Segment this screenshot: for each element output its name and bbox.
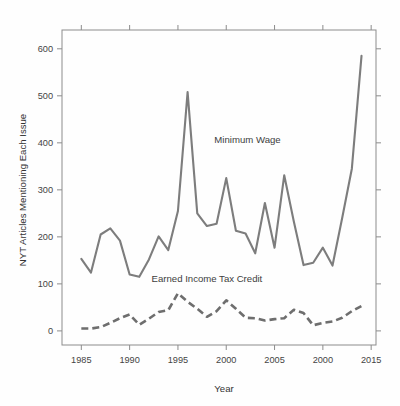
- series-annotations: Minimum WageEarned Income Tax Credit: [152, 134, 281, 284]
- x-tick-label: 1985: [71, 355, 91, 365]
- annotation-earned-income-tax-credit: Earned Income Tax Credit: [152, 273, 263, 284]
- x-axis-tick-labels: 1985199019952000200520002015: [71, 355, 381, 365]
- y-tick-label: 300: [38, 185, 53, 195]
- plot-frame: [62, 30, 376, 345]
- x-axis-title: Year: [214, 383, 234, 394]
- x-tick-label: 2000: [313, 355, 333, 365]
- y-tick-label: 0: [48, 326, 53, 336]
- data-series-group: [81, 56, 361, 329]
- y-tick-label: 500: [38, 91, 53, 101]
- y-tick-label: 200: [38, 232, 53, 242]
- y-tick-label: 400: [38, 138, 53, 148]
- series-line-minimum-wage: [81, 56, 361, 277]
- x-tick-label: 2015: [361, 355, 381, 365]
- y-axis-title: NYT Articles Mentioning Each Issue: [17, 114, 28, 266]
- y-tick-label: 600: [38, 44, 53, 54]
- y-axis-tick-labels: 0100200300400500600: [38, 44, 53, 336]
- series-line-earned-income-tax-credit: [81, 293, 361, 328]
- annotation-minimum-wage: Minimum Wage: [214, 134, 280, 145]
- y-tick-label: 100: [38, 279, 53, 289]
- x-tick-label: 1990: [119, 355, 139, 365]
- chart-figure: 0100200300400500600 19851990199520002005…: [0, 0, 400, 406]
- x-tick-label: 1995: [168, 355, 188, 365]
- x-tick-label: 2005: [264, 355, 284, 365]
- axis-ticks: [57, 25, 381, 350]
- line-chart-canvas: 0100200300400500600 19851990199520002005…: [0, 0, 400, 406]
- x-tick-label: 2000: [216, 355, 236, 365]
